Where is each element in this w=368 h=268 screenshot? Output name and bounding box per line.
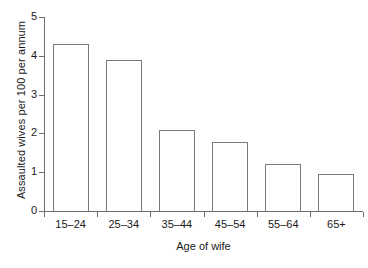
x-tick-label: 45–54 (204, 218, 257, 231)
y-tick-mark (39, 17, 44, 18)
y-tick-label: 3 (24, 89, 37, 100)
x-axis-title: Age of wife (44, 240, 363, 253)
bar (106, 60, 142, 211)
y-axis-line (44, 17, 45, 212)
bar (212, 142, 248, 211)
bar (318, 174, 354, 211)
x-tick-mark (257, 212, 258, 217)
y-tick-mark (39, 56, 44, 57)
x-tick-mark (363, 212, 364, 217)
y-tick-mark (39, 95, 44, 96)
y-tick-label: 2 (24, 127, 37, 138)
y-tick-mark (39, 172, 44, 173)
x-tick-mark (150, 212, 151, 217)
x-tick-mark (44, 212, 45, 217)
x-tick-label: 15–24 (44, 218, 97, 231)
x-tick-label: 35–44 (150, 218, 203, 231)
x-tick-label: 65+ (310, 218, 363, 231)
x-tick-mark (310, 212, 311, 217)
x-tick-label: 25–34 (97, 218, 150, 231)
x-tick-mark (97, 212, 98, 217)
bar (159, 130, 195, 211)
bar (53, 44, 89, 211)
bar-chart: Assaulted wives per 100 per annum 012345… (0, 0, 368, 268)
y-tick-label: 1 (24, 166, 37, 177)
y-tick-label: 5 (24, 11, 37, 22)
x-tick-label: 55–64 (257, 218, 310, 231)
y-tick-label: 0 (24, 205, 37, 216)
y-axis-title: Assaulted wives per 100 per annum (14, 4, 28, 216)
x-tick-mark (204, 212, 205, 217)
bar (265, 164, 301, 211)
y-tick-label: 4 (24, 50, 37, 61)
y-tick-mark (39, 133, 44, 134)
